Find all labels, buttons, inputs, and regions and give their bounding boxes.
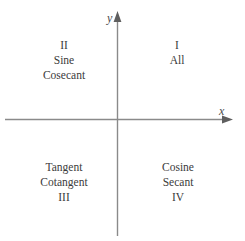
quadrant-4-function-secant: Secant xyxy=(130,175,226,190)
quadrant-diagram: y x II Sine Cosecant I All Tangent Cotan… xyxy=(0,0,245,241)
quadrant-2-function-cosecant: Cosecant xyxy=(16,68,112,83)
quadrant-3-function-cotangent: Cotangent xyxy=(14,175,114,190)
quadrant-2-function-sine: Sine xyxy=(16,53,112,68)
quadrant-2-label-group: II Sine Cosecant xyxy=(16,38,112,83)
quadrant-3-label-group: Tangent Cotangent III xyxy=(14,160,114,205)
quadrant-1-numeral: I xyxy=(129,38,225,53)
quadrant-3-numeral: III xyxy=(14,190,114,205)
quadrant-3-function-tangent: Tangent xyxy=(14,160,114,175)
quadrant-4-numeral: IV xyxy=(130,190,226,205)
x-axis-label: x xyxy=(219,105,224,117)
quadrant-1-label-group: I All xyxy=(129,38,225,68)
y-axis-arrowhead xyxy=(114,11,122,22)
y-axis-label: y xyxy=(107,12,112,24)
quadrant-1-function-all: All xyxy=(129,53,225,68)
quadrant-4-function-cosine: Cosine xyxy=(130,160,226,175)
quadrant-2-numeral: II xyxy=(16,38,112,53)
quadrant-4-label-group: Cosine Secant IV xyxy=(130,160,226,205)
